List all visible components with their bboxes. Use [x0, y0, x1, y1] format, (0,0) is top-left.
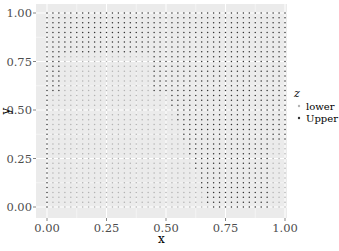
y-tick-label: 0.25 — [6, 152, 32, 166]
x-axis-title: x — [158, 232, 165, 246]
x-tick-label: 1.00 — [272, 221, 298, 235]
y-axis-title: y — [0, 107, 13, 115]
y-tick-label: 0.00 — [6, 200, 32, 214]
scatter-chart: 0.000.250.500.751.00 0.000.250.500.751.0… — [0, 0, 339, 251]
legend-label-upper: Upper — [306, 113, 338, 124]
legend: z lower Upper — [293, 87, 338, 124]
y-tick-label: 0.75 — [6, 55, 32, 69]
plot-panel — [36, 4, 287, 218]
legend-key-upper-icon — [298, 117, 300, 119]
x-tick-label: 0.75 — [213, 221, 239, 235]
data-points — [46, 12, 286, 208]
x-tick-label: 0.00 — [34, 221, 60, 235]
legend-key-lower-icon — [298, 105, 300, 107]
x-tick-label: 0.25 — [94, 221, 120, 235]
x-tick-label: 0.50 — [153, 221, 179, 235]
x-axis-ticks: 0.000.250.500.751.00 — [34, 218, 298, 235]
y-tick-label: 1.00 — [6, 6, 32, 20]
legend-title: z — [293, 87, 300, 100]
legend-label-lower: lower — [306, 101, 335, 112]
